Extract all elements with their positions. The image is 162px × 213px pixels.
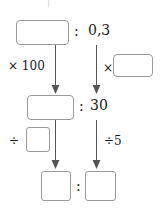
operation-label-left-1: × 100 — [8, 60, 45, 72]
answer-box-operand-left-2[interactable] — [26, 127, 50, 152]
arrow-left-bottom — [49, 120, 62, 170]
ratio-chain-diagram: | : 0,3 × 100 × : 30 ÷ — [0, 0, 162, 213]
ratio-value-row1-right: 0,3 — [88, 23, 110, 37]
answer-box-row2-left[interactable] — [27, 95, 74, 120]
arrow-left-top — [49, 45, 62, 95]
ratio-colon-row3: : — [76, 179, 81, 193]
operation-label-right-2: ÷5 — [104, 135, 122, 147]
ratio-value-row2-right: 30 — [90, 98, 108, 112]
arrow-right-bottom — [90, 120, 103, 170]
ratio-colon-row1: : — [74, 24, 79, 38]
answer-box-row1-left[interactable] — [16, 20, 69, 45]
operation-symbol-right-1: × — [103, 62, 113, 74]
answer-box-row3-right[interactable] — [85, 171, 116, 201]
answer-box-operand-right-1[interactable] — [113, 54, 153, 77]
answer-box-row3-left[interactable] — [41, 171, 71, 201]
arrow-right-top — [90, 45, 103, 95]
ratio-colon-row2: : — [79, 99, 84, 113]
operation-symbol-left-2: ÷ — [9, 135, 19, 147]
top-crop-mark: | — [47, 0, 50, 7]
